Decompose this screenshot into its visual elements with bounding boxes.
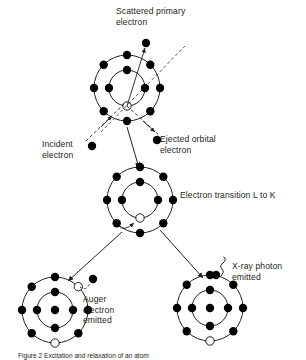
atom-bottom-left-k-electrons	[33, 288, 77, 332]
scattered-primary-electron-particle	[142, 39, 150, 47]
atom-bottom-left	[18, 273, 92, 347]
atom-bottom-left-nucleus	[51, 306, 59, 314]
label-xray-photon-emitted: X-ray photon emitted	[232, 261, 282, 282]
xray-photon-wave	[221, 257, 226, 276]
arrow-middle-to-xray	[160, 230, 203, 278]
atom-top	[86, 46, 185, 141]
atom-middle-k-vacancy	[136, 214, 144, 222]
atom-top-l-electrons	[90, 51, 164, 125]
figure-root: Scattered primary electron Incident elec…	[0, 0, 306, 360]
label-auger-electron-emitted: Auger electron emitted	[83, 294, 114, 326]
incident-electron-particle	[88, 142, 96, 150]
auger-electron-particle	[89, 275, 97, 283]
label-scattered-primary-electron: Scattered primary electron	[116, 6, 185, 27]
atom-bottom-right-nucleus	[206, 304, 214, 312]
figure-caption: Figure 2 Excitation and relaxation of an…	[18, 352, 298, 360]
label-incident-electron: Incident electron	[42, 139, 73, 160]
ejected-electron-arrowhead	[143, 121, 155, 132]
atom-bottom-left-l-vacancy-lower	[51, 339, 59, 347]
arrow-top-to-middle	[127, 127, 139, 168]
xray-origin-electron-particle	[212, 271, 220, 279]
incident-electron-arrowhead	[101, 116, 112, 127]
atom-top-k-shell	[109, 70, 145, 106]
atom-middle-k-shell	[122, 182, 158, 218]
label-electron-transition: Electron transition L to K	[180, 190, 276, 201]
atom-bottom-right-l-vacancy	[206, 337, 214, 345]
atomic-process-diagram	[0, 0, 306, 360]
label-ejected-orbital-electron: Ejected orbital electron	[160, 134, 216, 155]
atom-middle-l-electrons	[103, 163, 177, 237]
arrow-middle-to-auger	[68, 232, 122, 281]
atom-middle	[103, 163, 177, 237]
atom-bottom-right-k-electrons	[188, 286, 232, 330]
atom-bottom-left-l-vacancy-upper	[74, 283, 82, 291]
electron-transition-arrow	[119, 223, 134, 228]
